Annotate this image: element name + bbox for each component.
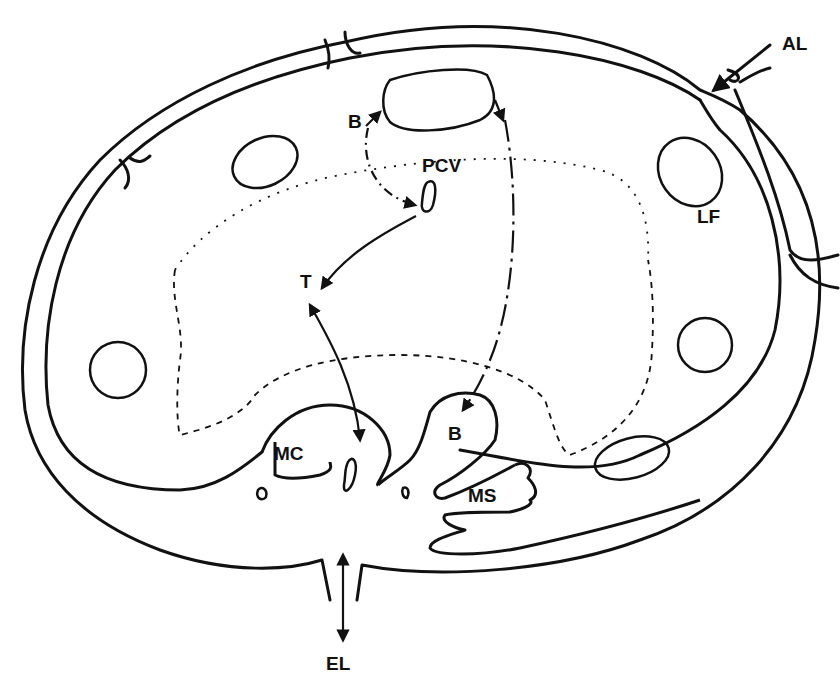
label-el: EL <box>326 653 351 674</box>
t-to-mc-path <box>310 305 360 440</box>
medullary-sinus <box>430 463 700 554</box>
label-pcv: PCV <box>422 155 461 176</box>
inner-capsule <box>46 46 700 490</box>
follicle-far-left <box>90 342 146 398</box>
follicle-top <box>383 70 494 131</box>
lymph-node-diagram: AL LF B PCV T MC B MS EL <box>0 0 840 694</box>
b-to-pcv-path <box>366 128 415 205</box>
label-t: T <box>300 271 312 292</box>
outer-capsule <box>23 27 820 600</box>
follicle-mid-right <box>678 318 732 372</box>
label-ms: MS <box>468 485 497 506</box>
label-b-bottom: B <box>448 423 462 444</box>
follicle-right <box>645 125 735 218</box>
label-al: AL <box>782 33 808 54</box>
label-lf: LF <box>697 206 720 227</box>
pcv-vessel <box>422 181 436 211</box>
label-mc: MC <box>274 443 304 464</box>
paracortex-boundary <box>175 159 648 270</box>
label-b-top: B <box>348 111 362 132</box>
follicle-left <box>224 126 306 198</box>
pcv-to-t-path <box>322 216 416 288</box>
